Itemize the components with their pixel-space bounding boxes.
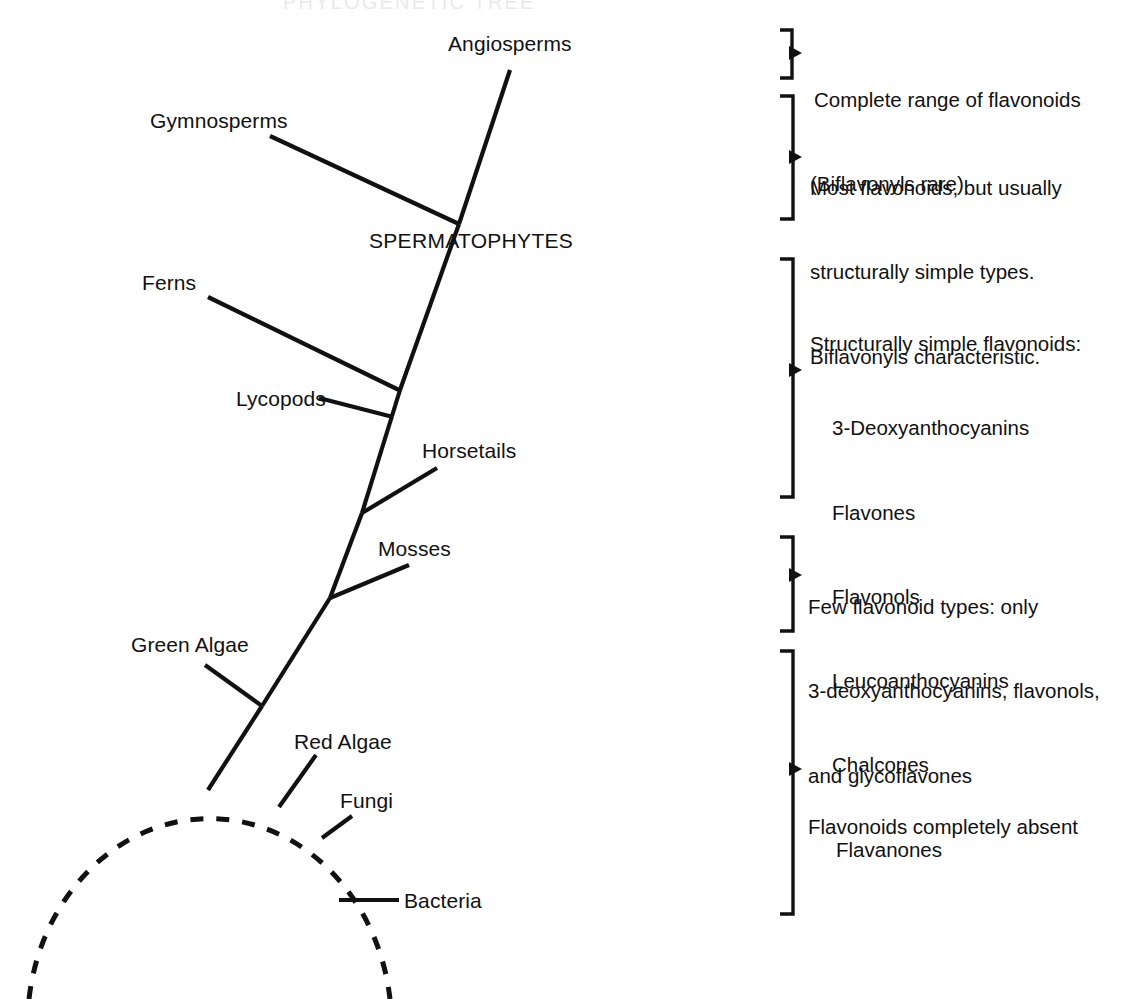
tree-label-ferns: Ferns [142,270,196,296]
tree-label-lycopods: Lycopods [236,386,326,412]
branch-green-algae [205,665,262,706]
tree-label-fungi: Fungi [340,788,393,814]
annotation-flavonoid-item-1: Flavones [810,499,1081,527]
tree-branches [205,70,510,900]
annotation-structurally-simple-heading: Structurally simple flavonoids: [810,330,1081,358]
bracket-few-types [780,537,793,631]
tree-label-horsetails: Horsetails [422,438,516,464]
annotation-complete-range-line1: Complete range of flavonoids [810,86,1081,114]
branch-angiosperms [459,70,510,224]
branch-gymnosperms [270,136,459,224]
arrow-few-types-icon [789,568,802,582]
arrow-structurally-simple-icon [789,363,802,377]
branch-fungi [322,816,352,838]
trunk-ferns-lycopods [392,390,400,416]
annotation-absent-line1: Flavonoids completely absent [808,813,1078,841]
tree-label-green-algae: Green Algae [131,632,249,658]
annotation-few-types-line1: Few flavonoid types: only [808,593,1100,621]
tree-label-gymnosperms: Gymnosperms [150,108,288,134]
annotation-absent: Flavonoids completely absent [808,757,1078,897]
tree-label-angiosperms: Angiosperms [448,31,572,57]
trunk-mosses-greenalgae [262,598,330,706]
branch-lycopods [319,398,393,417]
tree-label-mosses: Mosses [378,536,451,562]
bracket-structurally-simple [780,259,793,497]
tree-label-red-algae: Red Algae [294,729,392,755]
trunk-greenalgae-root [208,706,262,790]
annotation-few-types-line2: 3-deoxyanthocyanins, flavonols, [808,677,1100,705]
arrow-absent-icon [789,762,802,776]
arrow-most-flavonoids-icon [789,150,802,164]
branch-ferns [208,297,401,391]
root-arc-dashed [29,819,390,999]
figure-canvas: PHYLOGENETIC TREE [0,0,1133,999]
branch-red-algae [279,755,316,807]
annotation-most-flavonoids-line1: Most flavonoids, but usually [810,174,1062,202]
arrow-complete-range-icon [789,46,802,60]
annotation-arrowheads [789,46,802,776]
tree-label-spermatophytes: SPERMATOPHYTES [369,228,573,254]
tree-label-bacteria: Bacteria [404,888,482,914]
bracket-absent [780,651,793,914]
annotation-flavonoid-item-0: 3-Deoxyanthocyanins [810,414,1081,442]
